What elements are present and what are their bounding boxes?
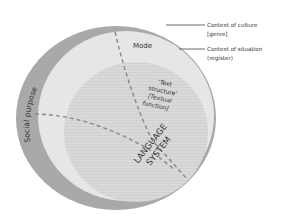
callout-situation-sub: (register) bbox=[207, 55, 233, 62]
callout-culture-sub: [genre] bbox=[207, 31, 228, 38]
callout-situation-title: Context of situation bbox=[207, 46, 263, 52]
callout-culture-title: Context of culture bbox=[207, 22, 258, 28]
diagram-canvas: Social purpose Mode 'Text structure' [Te… bbox=[0, 0, 285, 219]
language-system-circle bbox=[64, 62, 208, 202]
mode-label: Mode bbox=[133, 42, 152, 50]
